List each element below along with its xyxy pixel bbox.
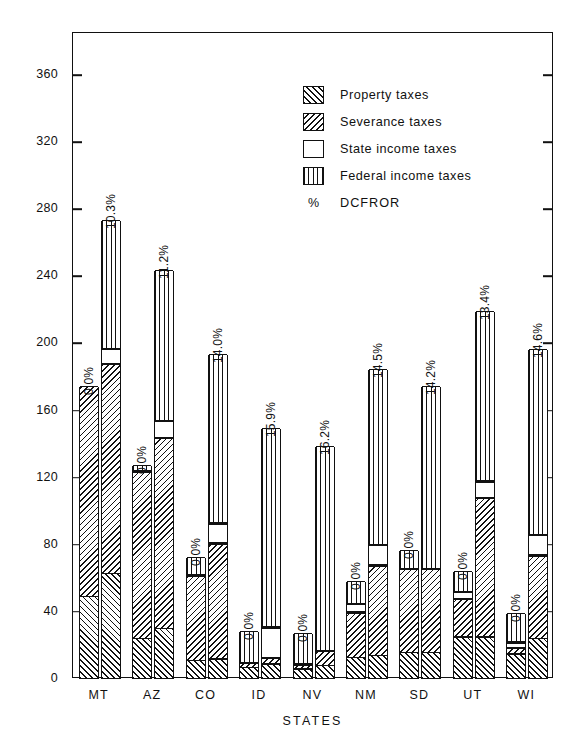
y-tick-mark [73, 343, 82, 345]
segment-federal-income-taxes [476, 311, 494, 482]
y-tick-label: 200 [36, 335, 58, 349]
segment-divider [347, 611, 365, 612]
legend-item-state-income-taxes: State income taxes [303, 135, 533, 162]
segment-property-taxes [400, 653, 418, 678]
bar-ut-no-severance [453, 572, 473, 679]
segment-divider [187, 574, 205, 575]
segment-severance-taxes [422, 569, 440, 653]
segment-property-taxes [316, 666, 334, 678]
segment-severance-taxes [209, 544, 227, 660]
segment-divider [155, 628, 173, 629]
segment-divider [262, 626, 280, 627]
segment-divider [476, 497, 494, 498]
segment-divider [529, 638, 547, 639]
segment-severance-taxes [80, 386, 98, 597]
legend-label: Property taxes [340, 88, 429, 102]
y-tick-mark [73, 276, 82, 278]
segment-federal-income-taxes [262, 428, 280, 628]
segment-property-taxes [240, 668, 258, 678]
x-tick-label-nv: NV [303, 688, 323, 702]
segment-state-income-taxes [369, 545, 387, 565]
segment-divider [294, 668, 312, 669]
segment-divider [262, 657, 280, 658]
segment-severance-taxes [369, 566, 387, 657]
segment-property-taxes [294, 670, 312, 678]
bar-az-with-severance [154, 271, 174, 679]
segment-divider [347, 603, 365, 604]
segment-state-income-taxes [155, 421, 173, 438]
segment-federal-income-taxes [155, 270, 173, 421]
y-tick-mark [543, 141, 552, 143]
segment-divider [476, 480, 494, 481]
segment-property-taxes [529, 639, 547, 678]
segment-divider [369, 544, 387, 545]
y-tick-mark [543, 208, 552, 210]
segment-federal-income-taxes [422, 386, 440, 569]
segment-property-taxes [102, 574, 120, 678]
bar-dcfror-label: 10.3% [104, 194, 118, 229]
segment-property-taxes [187, 661, 205, 678]
chart-figure: CUMULATIVE TAX PAYMENTS OVER THE LIFE OF… [0, 0, 581, 746]
x-tick-label-az: AZ [143, 688, 161, 702]
segment-property-taxes [369, 656, 387, 678]
plot-area: 0.0%10.3%0.0%11.2%0.0%14.0%0.0%15.9%0.0%… [72, 32, 553, 678]
bar-dcfror-label: 0.0% [189, 538, 203, 566]
legend-label: State income taxes [340, 142, 457, 156]
segment-federal-income-taxes [369, 369, 387, 545]
bar-nm-with-severance [368, 370, 388, 679]
segment-divider [155, 420, 173, 421]
segment-divider [187, 660, 205, 661]
segment-property-taxes [80, 597, 98, 678]
segment-divider [529, 554, 547, 555]
legend-swatch-icon [303, 113, 324, 131]
segment-divider [294, 663, 312, 664]
bar-dcfror-label: 14.5% [371, 343, 385, 378]
segment-divider [529, 534, 547, 535]
y-tick-label: 160 [36, 403, 58, 417]
y-tick-mark [73, 141, 82, 143]
legend-swatch-icon [303, 86, 324, 104]
segment-divider [102, 363, 120, 364]
x-tick-label-wi: WI [517, 688, 535, 702]
segment-severance-taxes [155, 438, 173, 629]
bar-sd-with-severance [421, 387, 441, 679]
segment-federal-income-taxes [209, 354, 227, 523]
bar-dcfror-label: 0.0% [242, 612, 256, 640]
segment-property-taxes [155, 629, 173, 678]
segment-divider [240, 667, 258, 668]
segment-divider [422, 568, 440, 569]
bar-dcfror-label: 14.6% [531, 323, 545, 358]
bar-nm-no-severance [346, 582, 366, 679]
legend-label: Severance taxes [340, 115, 442, 129]
x-axis-title: STATES [72, 714, 553, 728]
y-tick-label: 40 [43, 604, 58, 618]
segment-divider [262, 663, 280, 664]
segment-divider [102, 573, 120, 574]
segment-state-income-taxes [476, 482, 494, 499]
segment-severance-taxes [102, 364, 120, 574]
x-tick-label-sd: SD [409, 688, 429, 702]
y-tick-mark [73, 208, 82, 210]
segment-divider [80, 596, 98, 597]
y-tick-label: 280 [36, 201, 58, 215]
bar-dcfror-label: 13.4% [478, 285, 492, 320]
segment-property-taxes [422, 653, 440, 678]
bar-dcfror-label: 14.0% [211, 328, 225, 363]
segment-property-taxes [133, 639, 151, 678]
segment-divider [422, 652, 440, 653]
bar-dcfror-label: 0.0% [456, 551, 470, 579]
x-tick-label-mt: MT [88, 688, 108, 702]
bar-dcfror-label: 14.2% [424, 360, 438, 395]
segment-divider [454, 598, 472, 599]
bar-dcfror-label: 16.2% [318, 420, 332, 455]
legend-item-federal-income-taxes: Federal income taxes [303, 162, 533, 189]
segment-divider [507, 647, 525, 648]
y-tick-mark [543, 74, 552, 76]
y-tick-label: 360 [36, 67, 58, 81]
segment-divider [454, 636, 472, 637]
chart-legend: Property taxesSeverance taxesState incom… [303, 81, 533, 216]
bar-sd-no-severance [399, 551, 419, 679]
segment-severance-taxes [347, 613, 365, 658]
legend-label: DCFROR [340, 196, 400, 210]
segment-divider [209, 522, 227, 523]
